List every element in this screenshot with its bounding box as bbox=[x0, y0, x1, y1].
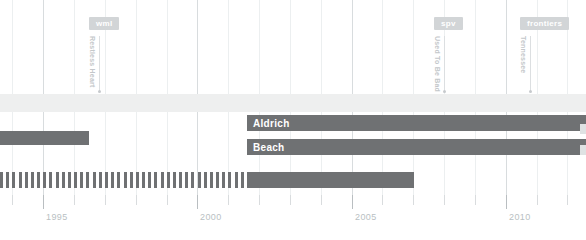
stripe-segment bbox=[142, 172, 145, 188]
stripe-segment bbox=[241, 172, 244, 188]
stripe-segment bbox=[161, 172, 164, 188]
stripe-segment bbox=[216, 172, 219, 188]
event-stem-2 bbox=[530, 36, 531, 92]
axis-label-2005: 2005 bbox=[355, 212, 377, 222]
edge-clip-0 bbox=[580, 124, 586, 134]
stripe-segment bbox=[130, 172, 133, 188]
stripe-segment bbox=[99, 172, 102, 188]
stripe-segment bbox=[6, 172, 9, 188]
stripe-segment bbox=[198, 172, 201, 188]
axis-tick-1994 bbox=[12, 195, 13, 205]
stripe-segment bbox=[185, 172, 188, 188]
axis-tick-2009 bbox=[475, 195, 476, 205]
stripe-segment bbox=[43, 172, 46, 188]
axis-tick-2004 bbox=[321, 195, 322, 205]
stripe-segment bbox=[148, 172, 151, 188]
event-title-0: Restless Heart bbox=[89, 36, 96, 87]
stripe-segment bbox=[25, 172, 28, 188]
event-title-1: Used To Be Bad bbox=[434, 36, 441, 92]
axis-tick-2011 bbox=[537, 195, 538, 205]
series-bar-unlabeled-lower-solid[interactable] bbox=[247, 172, 414, 188]
timeline-chart: AldrichBeach1995200020052010wmlRestless … bbox=[0, 0, 586, 240]
series-bar-unlabeled-lower-dashed bbox=[0, 172, 247, 188]
event-dot-2 bbox=[529, 90, 532, 93]
series-bar-Beach[interactable] bbox=[247, 139, 586, 155]
stripe-segment bbox=[49, 172, 52, 188]
axis-tick-2008 bbox=[444, 195, 445, 205]
stripe-segment bbox=[228, 172, 231, 188]
axis-tick-2012 bbox=[567, 195, 568, 205]
stripe-segment bbox=[235, 172, 238, 188]
axis-tick-1998 bbox=[136, 195, 137, 205]
stripe-segment bbox=[136, 172, 139, 188]
stripe-segment bbox=[56, 172, 59, 188]
stripe-segment bbox=[105, 172, 108, 188]
series-label-Aldrich: Aldrich bbox=[253, 117, 290, 130]
stripe-segment bbox=[154, 172, 157, 188]
stripe-segment bbox=[86, 172, 89, 188]
stripe-segment bbox=[210, 172, 213, 188]
stripe-segment bbox=[204, 172, 207, 188]
axis-label-1995: 1995 bbox=[46, 212, 68, 222]
stripe-segment bbox=[37, 172, 40, 188]
stripe-segment bbox=[167, 172, 170, 188]
stripe-segment bbox=[19, 172, 22, 188]
axis-tick-2003 bbox=[290, 195, 291, 205]
stripe-segment bbox=[173, 172, 176, 188]
stripe-segment bbox=[179, 172, 182, 188]
stripe-segment bbox=[62, 172, 65, 188]
axis-tick-2010 bbox=[506, 195, 507, 209]
event-title-2: Tennessee bbox=[520, 36, 527, 73]
stripe-segment bbox=[80, 172, 83, 188]
stripe-segment bbox=[191, 172, 194, 188]
era-band bbox=[0, 94, 586, 112]
series-bar-Aldrich[interactable] bbox=[247, 115, 586, 131]
axis-tick-2001 bbox=[228, 195, 229, 205]
axis-label-2010: 2010 bbox=[509, 212, 531, 222]
stripe-segment bbox=[111, 172, 114, 188]
stripe-segment bbox=[74, 172, 77, 188]
edge-clip-1 bbox=[580, 145, 586, 155]
axis-tick-1996 bbox=[74, 195, 75, 205]
event-badge-0[interactable]: wml bbox=[89, 17, 119, 30]
event-dot-0 bbox=[98, 90, 101, 93]
event-badge-1[interactable]: spv bbox=[434, 17, 463, 30]
axis-tick-2000 bbox=[197, 195, 198, 209]
axis-tick-1995 bbox=[43, 195, 44, 209]
stripe-segment bbox=[93, 172, 96, 188]
series-label-Beach: Beach bbox=[253, 141, 285, 154]
axis-tick-2007 bbox=[413, 195, 414, 205]
series-bar-unlabeled-upper[interactable] bbox=[0, 131, 89, 145]
event-stem-0 bbox=[99, 36, 100, 92]
stripe-segment bbox=[68, 172, 71, 188]
stripe-segment bbox=[0, 172, 3, 188]
axis-tick-2006 bbox=[382, 195, 383, 205]
event-dot-1 bbox=[443, 90, 446, 93]
axis-tick-2002 bbox=[259, 195, 260, 205]
stripe-segment bbox=[222, 172, 225, 188]
event-stem-1 bbox=[444, 36, 445, 92]
axis-tick-1997 bbox=[105, 195, 106, 205]
axis-tick-2005 bbox=[352, 195, 353, 209]
stripe-segment bbox=[117, 172, 120, 188]
axis-tick-1999 bbox=[167, 195, 168, 205]
stripe-segment bbox=[124, 172, 127, 188]
axis-label-2000: 2000 bbox=[200, 212, 222, 222]
event-badge-2[interactable]: frontiers bbox=[520, 17, 569, 30]
stripe-segment bbox=[31, 172, 34, 188]
stripe-segment bbox=[12, 172, 15, 188]
